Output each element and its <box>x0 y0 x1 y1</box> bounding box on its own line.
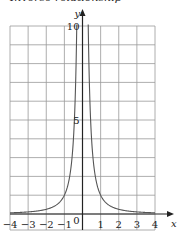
svg-text:3: 3 <box>134 219 140 230</box>
svg-text:y: y <box>74 8 81 19</box>
svg-text:−1: −1 <box>57 219 72 230</box>
svg-text:10: 10 <box>67 21 80 32</box>
svg-text:−2: −2 <box>39 219 54 230</box>
axes <box>10 9 174 230</box>
chart-plot: −4−3−2−101234510xy <box>0 0 179 236</box>
svg-text:x: x <box>171 218 177 229</box>
tick-labels: −4−3−2−101234510xy <box>3 8 177 230</box>
svg-text:2: 2 <box>116 219 122 230</box>
svg-text:0: 0 <box>73 215 79 226</box>
curve-right-branch <box>88 25 155 213</box>
svg-text:4: 4 <box>152 219 158 230</box>
svg-text:−3: −3 <box>21 219 36 230</box>
svg-text:1: 1 <box>97 219 103 230</box>
svg-text:−4: −4 <box>3 219 18 230</box>
curve-left-branch <box>10 25 77 213</box>
svg-text:5: 5 <box>73 115 79 126</box>
